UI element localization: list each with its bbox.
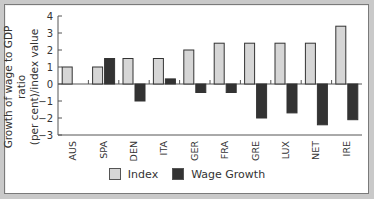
x-tick-label: NET: [310, 141, 321, 160]
legend-item-index: Index: [109, 168, 158, 181]
y-tick-label: −1: [38, 96, 53, 107]
index-bar-ita: [153, 59, 163, 85]
legend: Index Wage Growth: [0, 166, 374, 182]
index-bar-fra: [214, 43, 224, 84]
y-tick-label: 3: [47, 28, 53, 39]
x-tick-label: LUX: [280, 141, 291, 160]
wage-growth-bar-gre: [257, 84, 267, 118]
index-bar-lux: [275, 43, 285, 84]
index-bar-ire: [336, 26, 346, 84]
index-bar-ger: [184, 50, 194, 84]
y-tick-label: 0: [47, 79, 53, 90]
wage-growth-bar-ita: [165, 79, 175, 84]
legend-swatch-index: [109, 168, 121, 180]
y-tick-label: −3: [38, 130, 53, 141]
x-tick-label: GER: [189, 141, 200, 161]
legend-swatch-wage-growth: [172, 168, 184, 180]
y-tick-label: −2: [38, 113, 53, 124]
x-tick-label: IRE: [341, 141, 352, 156]
wage-growth-bar-net: [317, 84, 327, 125]
wage-growth-bar-ger: [196, 84, 206, 93]
x-tick-label: DEN: [128, 141, 139, 161]
index-bar-gre: [245, 43, 255, 84]
x-tick-label: FRA: [219, 141, 230, 160]
y-tick-label: 2: [47, 45, 53, 56]
index-bar-spa: [93, 67, 103, 84]
wage-growth-bar-lux: [287, 84, 297, 113]
x-tick-label: GRE: [250, 141, 261, 161]
x-tick-label: SPA: [98, 141, 109, 159]
wage-growth-bar-fra: [226, 84, 236, 93]
wage-growth-bar-den: [135, 84, 145, 101]
wage-growth-bar-spa: [105, 59, 115, 85]
legend-item-wage-growth: Wage Growth: [172, 168, 265, 181]
y-tick-label: 4: [47, 11, 53, 22]
y-tick-label: 1: [47, 62, 53, 73]
index-bar-net: [305, 43, 315, 84]
wage-growth-bar-ire: [348, 84, 358, 120]
x-tick-label: ITA: [158, 141, 169, 156]
legend-label-index: Index: [128, 168, 158, 181]
legend-label-wage-growth: Wage Growth: [191, 168, 265, 181]
index-bar-den: [123, 59, 133, 85]
x-tick-label: AUS: [67, 141, 78, 160]
index-bar-aus: [62, 67, 72, 84]
